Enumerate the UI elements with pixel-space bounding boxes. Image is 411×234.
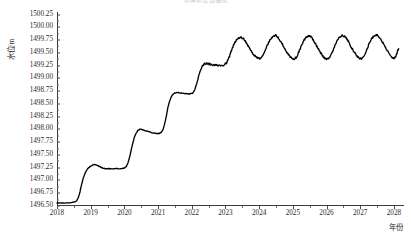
x-tick-label: 2022	[185, 210, 199, 217]
y-tick-label: 1497.00	[30, 177, 53, 184]
x-minor-tick	[175, 206, 176, 208]
x-tick-mark	[360, 206, 361, 209]
water-level-line	[57, 12, 404, 206]
x-minor-tick	[310, 206, 311, 208]
y-tick-label: 1498.25	[30, 113, 53, 120]
y-tick-label: 1496.75	[30, 190, 53, 197]
x-tick-mark	[293, 206, 294, 209]
y-tick-label: 1497.25	[30, 164, 53, 171]
y-tick-label: 1499.50	[30, 49, 53, 56]
x-tick-mark	[158, 206, 159, 209]
x-minor-tick	[108, 206, 109, 208]
x-tick-label: 2024	[252, 210, 266, 217]
x-minor-tick	[74, 206, 75, 208]
x-tick-label: 2026	[319, 210, 333, 217]
x-axis-label: 年份	[389, 221, 403, 232]
y-tick-label: 1498.50	[30, 100, 53, 107]
x-tick-mark	[225, 206, 226, 209]
chart-title: 水库水位过程线	[0, 0, 411, 4]
y-tick-label: 1499.75	[30, 36, 53, 43]
x-minor-tick	[209, 206, 210, 208]
y-tick-label: 1498.00	[30, 126, 53, 133]
x-minor-tick	[377, 206, 378, 208]
x-tick-mark	[394, 206, 395, 209]
x-tick-label: 2028	[387, 210, 401, 217]
x-minor-tick	[242, 206, 243, 208]
x-tick-label: 2018	[50, 210, 64, 217]
y-tick-label: 1500.00	[30, 24, 53, 31]
y-tick-label: 1500.25	[30, 11, 53, 18]
water-level-chart: 水库水位过程线 水位/m 年份 1500.251500.001499.75149…	[0, 0, 411, 234]
y-tick-label: 1497.50	[30, 151, 53, 158]
x-tick-mark	[124, 206, 125, 209]
x-tick-mark	[192, 206, 193, 209]
x-tick-label: 2020	[117, 210, 131, 217]
x-tick-label: 2025	[286, 210, 300, 217]
x-tick-mark	[91, 206, 92, 209]
x-tick-mark	[57, 206, 58, 209]
x-tick-label: 2021	[151, 210, 165, 217]
x-tick-label: 2019	[84, 210, 98, 217]
y-tick-label: 1497.75	[30, 139, 53, 146]
y-axis-label: 水位/m	[5, 22, 16, 78]
y-tick-label: 1498.75	[30, 88, 53, 95]
x-minor-tick	[141, 206, 142, 208]
x-minor-tick	[276, 206, 277, 208]
y-tick-label: 1499.25	[30, 62, 53, 69]
x-minor-tick	[343, 206, 344, 208]
plot-area: 1500.251500.001499.751499.501499.251499.…	[57, 12, 404, 206]
x-tick-mark	[259, 206, 260, 209]
x-tick-mark	[327, 206, 328, 209]
y-tick-label: 1499.00	[30, 75, 53, 82]
x-tick-label: 2023	[218, 210, 232, 217]
x-tick-label: 2027	[353, 210, 367, 217]
